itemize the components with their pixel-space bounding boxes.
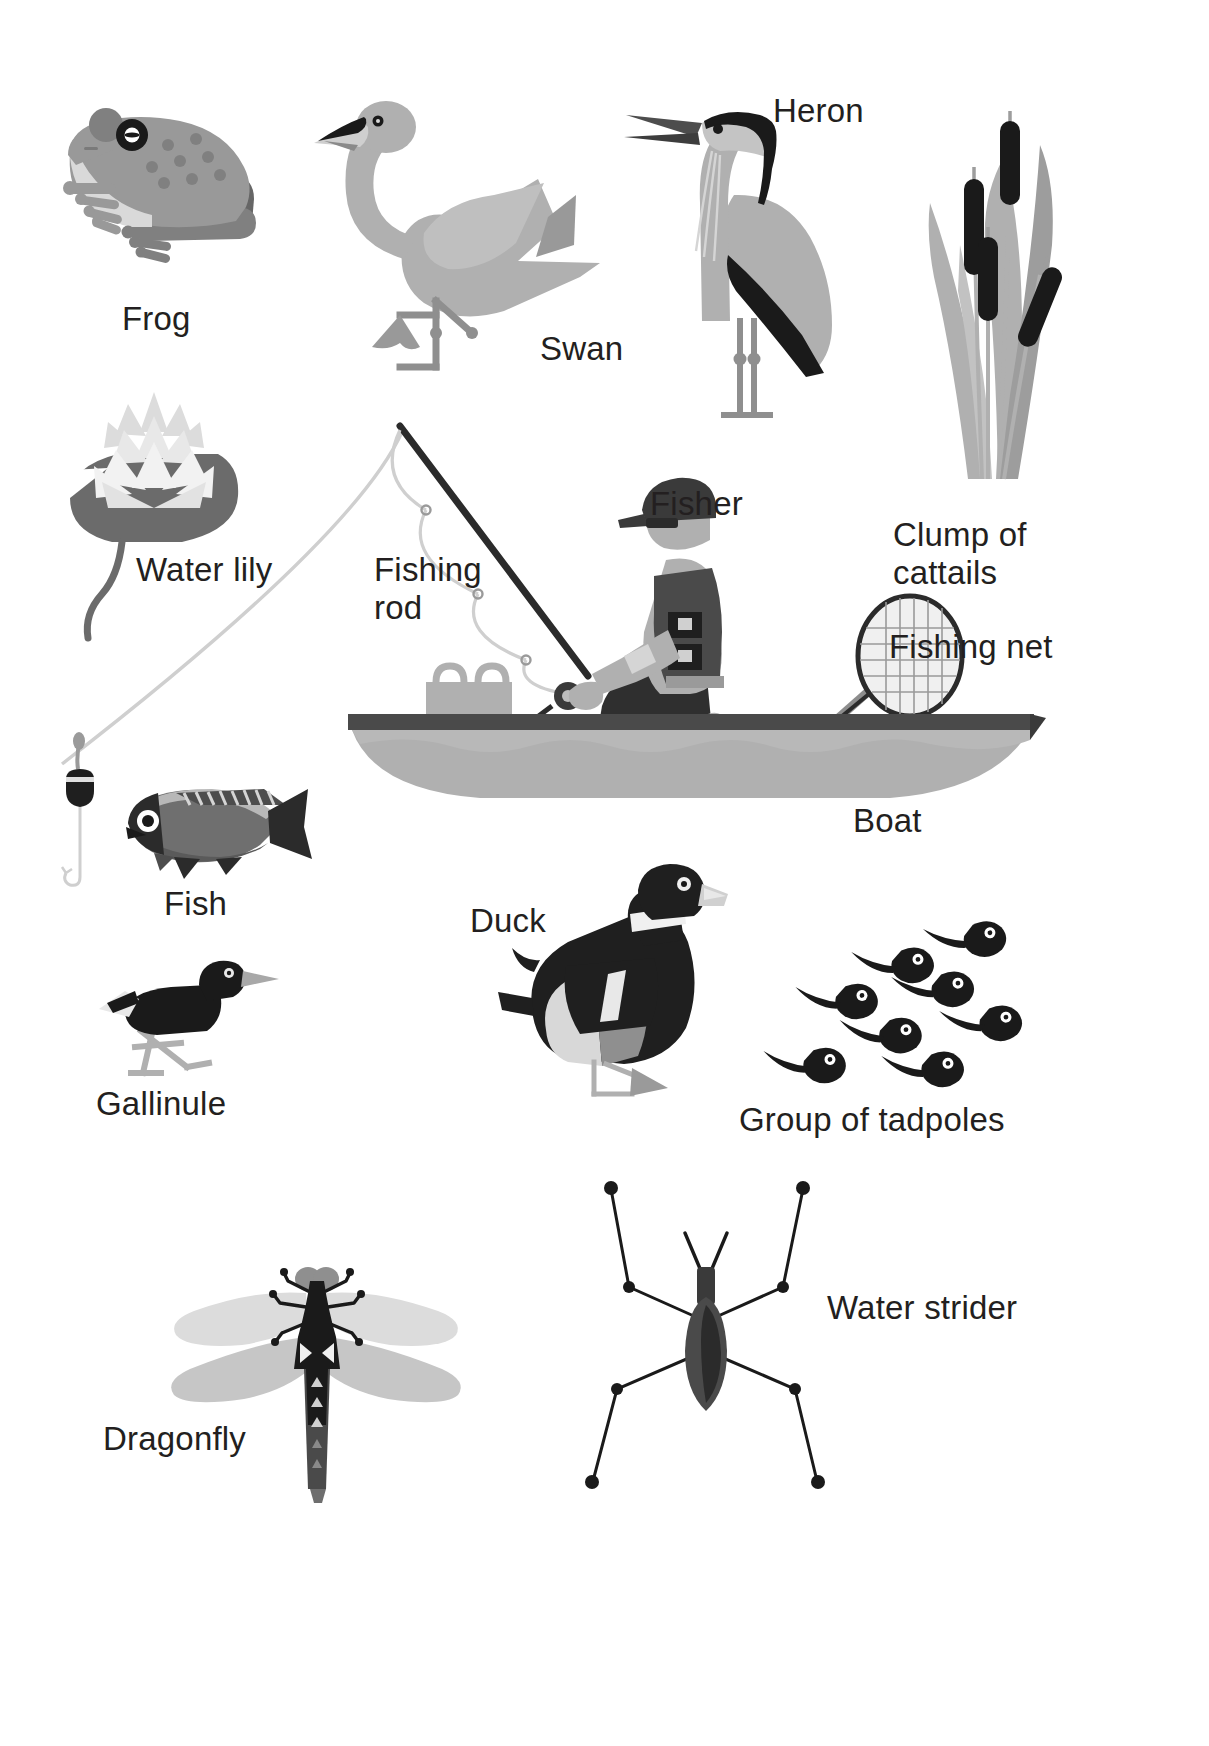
label-heron: Heron [773, 92, 864, 130]
label-swan: Swan [540, 330, 623, 368]
tadpole-group [760, 910, 1050, 1080]
label-frog: Frog [122, 300, 191, 338]
label-boat: Boat [853, 802, 922, 840]
frog-illustration [40, 95, 290, 285]
label-duck: Duck [470, 902, 546, 940]
label-water-lily: Water lily [136, 551, 272, 589]
label-fishing-rod: Fishing rod [374, 551, 482, 627]
heron-illustration [618, 85, 888, 425]
dragonfly-illustration [160, 1245, 480, 1515]
illustration-canvas: Frog [0, 0, 1209, 1746]
label-water-strider: Water strider [827, 1289, 1017, 1327]
label-fish: Fish [164, 885, 227, 923]
water-strider-illustration [555, 1175, 855, 1495]
duck-illustration [498, 862, 728, 1102]
bobber-line-and-fish [50, 735, 310, 885]
label-fisher: Fisher [650, 485, 743, 523]
label-gallinule: Gallinule [96, 1085, 226, 1123]
gallinule-illustration [95, 955, 295, 1085]
label-tadpoles: Group of tadpoles [739, 1101, 1005, 1139]
label-fishing-net: Fishing net [889, 628, 1053, 666]
label-dragonfly: Dragonfly [103, 1420, 246, 1458]
water-lily-illustration [50, 370, 260, 640]
